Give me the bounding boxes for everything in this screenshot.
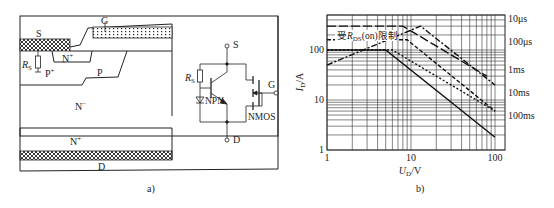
x-tick-label: 1 (325, 152, 330, 163)
drain-metal (20, 151, 172, 160)
y-tick-label: 1 (319, 144, 324, 155)
label-source: S (36, 28, 42, 39)
circuit-label-rs: RS (184, 72, 195, 85)
label-n-minus: N− (75, 100, 86, 112)
label-p-plus: P+ (45, 67, 55, 79)
series-label: 100μs (508, 36, 532, 47)
equivalent-circuit (196, 44, 278, 142)
circuit-label-drain: D (233, 134, 240, 145)
label-gate: G (101, 15, 108, 26)
circuit-label-nmos: NMOS (248, 112, 275, 122)
source-metal (20, 39, 70, 51)
label-rs-structure: RS (21, 59, 32, 72)
rs-resistor-icon (198, 70, 203, 82)
y-tick-label: 10 (314, 94, 324, 105)
y-tick-label: 100 (309, 44, 324, 55)
x-tick-label: 10 (406, 152, 416, 163)
series-label: 10μs (508, 13, 527, 24)
y-axis-label: ID/A (294, 72, 307, 92)
series-label: 1ms (508, 64, 525, 75)
caption-a: a) (147, 183, 155, 195)
source-terminal-icon (225, 44, 229, 48)
x-axis-label: UD/V (399, 165, 422, 178)
series-label: 100ms (508, 110, 535, 121)
caption-b: b) (416, 183, 424, 195)
gate-terminal-icon (274, 91, 278, 95)
figure-canvas: S G N+ RS P+ P N− N+ D (0, 0, 554, 208)
label-drain: D (98, 161, 105, 172)
rs-resistor-structure (36, 56, 41, 68)
mosfet-cross-section: S G N+ RS P+ P N− N+ D (20, 15, 278, 172)
circuit-labels: S G D RS NPN NMOS (184, 39, 275, 145)
x-tick-label: 100 (488, 152, 503, 163)
drain-terminal-icon (225, 138, 229, 142)
label-n-plus-bottom: N+ (70, 135, 81, 147)
series-label: 10ms (508, 87, 530, 98)
circuit-label-npn: NPN (205, 96, 224, 106)
circuit-label-source: S (233, 39, 239, 50)
soa-chart: 110100110100UD/VID/A10μs100μs1ms10ms100m… (294, 13, 535, 178)
circuit-label-gate: G (268, 79, 275, 90)
label-p: P (97, 67, 103, 78)
